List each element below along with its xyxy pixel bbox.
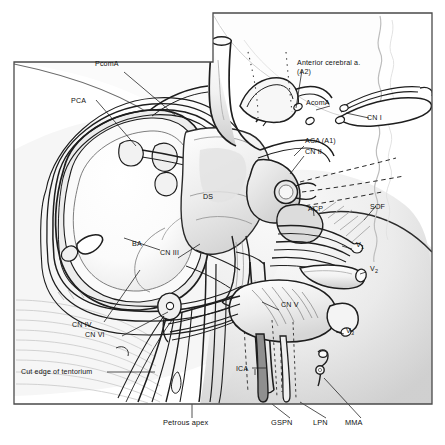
- illustration-canvas: [0, 0, 445, 445]
- anatomical-figure: PcomA PCA Anterior cerebral a. (A2) Acom…: [0, 0, 445, 445]
